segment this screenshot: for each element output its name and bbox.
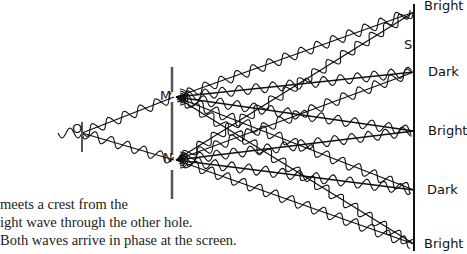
band-dark-1: Dark — [428, 64, 459, 79]
screen-label-s: S — [404, 37, 412, 52]
caption-line-2: ight wave through the other hole. — [0, 214, 192, 231]
caption-line-1: meets a crest from the — [0, 196, 128, 213]
caption-line-3: Both waves arrive in phase at the screen… — [0, 232, 237, 249]
band-bright-2: Bright — [428, 123, 467, 138]
slit-label-n: N — [163, 150, 173, 165]
band-dark-2: Dark — [427, 182, 458, 197]
band-bright-3: Bright — [424, 236, 463, 251]
band-bright-1: Bright — [424, 0, 463, 13]
source-label-o: O — [72, 121, 82, 136]
slit-label-m: M — [160, 88, 171, 103]
